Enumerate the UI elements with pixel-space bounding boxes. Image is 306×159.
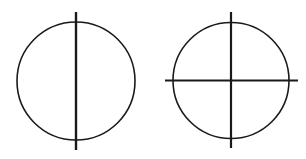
figure-circle-with-vertical-diameter [17, 12, 135, 150]
diagram-canvas [0, 0, 306, 159]
figure-circle-with-crosshair [165, 12, 298, 148]
diagram-svg [0, 0, 306, 159]
